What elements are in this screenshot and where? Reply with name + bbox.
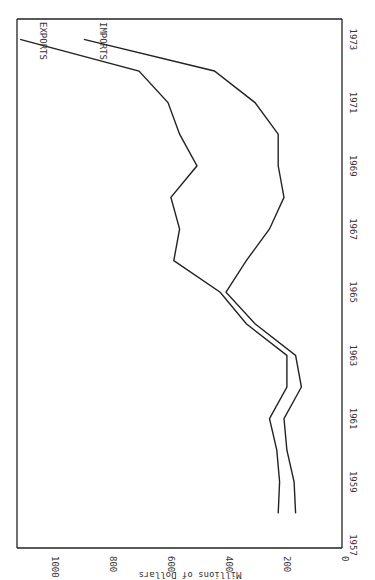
exports-line	[20, 39, 287, 513]
year-tick-label: 1959	[348, 471, 358, 493]
year-tick-label: 1973	[348, 29, 358, 51]
year-tick-label: 1965	[348, 281, 358, 303]
value-tick-label: 800	[108, 556, 118, 572]
year-tick-label: 1969	[348, 155, 358, 177]
imports-label: IMPORTS	[98, 22, 108, 60]
value-tick-label: 0	[340, 556, 350, 561]
value-tick-label: 1000	[50, 556, 60, 578]
year-tick-label: 1957	[348, 534, 358, 556]
year-ticks: 195719591961196319651967196919711973	[348, 29, 358, 556]
trade-chart: 195719591961196319651967196919711973 020…	[0, 0, 375, 580]
year-tick-label: 1961	[348, 408, 358, 430]
series-labels: EXPORTSIMPORTS	[38, 22, 108, 60]
value-tick-label: 400	[224, 556, 234, 572]
value-tick-label: 200	[282, 556, 292, 572]
series-lines	[20, 39, 301, 513]
year-tick-label: 1967	[348, 218, 358, 240]
year-tick-label: 1971	[348, 92, 358, 114]
plot-frame	[17, 19, 342, 548]
year-tick-label: 1963	[348, 345, 358, 367]
exports-label: EXPORTS	[38, 22, 48, 60]
value-tick-label: 600	[166, 556, 176, 572]
imports-line	[84, 39, 302, 513]
value-axis-label: Millions of Dollars	[139, 570, 242, 580]
